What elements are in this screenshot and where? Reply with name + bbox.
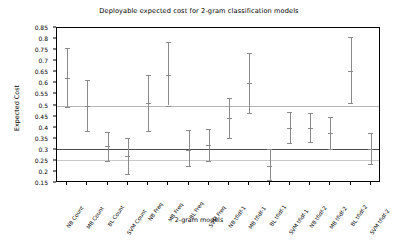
error-bar-cap-upper [227,98,232,99]
y-tick-label: 0.4 [38,123,48,130]
plot-area [56,27,380,182]
y-tick-label: 0.7 [38,57,48,64]
data-point-marker [308,128,313,129]
data-point-marker [368,149,373,150]
y-tick-label: 0.3 [38,145,48,152]
error-bar-cap-lower [247,113,252,114]
error-bar-cap-upper [85,80,90,81]
error-bar-cap-upper [146,75,151,76]
error-bar-cap-upper [287,112,292,113]
errorbar-series [57,28,379,181]
x-tick-label: MB Count [86,205,106,230]
error-bar-line [351,37,352,103]
data-point-marker [267,166,272,167]
data-point-marker [227,118,232,119]
error-bar-cap-upper [368,133,373,134]
data-point-marker [166,75,171,76]
error-bar-cap-lower [348,103,353,104]
error-bar-cap-upper [166,42,171,43]
data-point-marker [328,133,333,134]
chart-title: Deployable expected cost for 2-gram clas… [0,7,398,15]
x-tick-label: MB tfidf-2 [329,205,349,230]
y-tick-label: 0.15 [35,179,48,186]
error-bar-cap-lower [65,107,70,108]
data-point-marker [85,106,90,107]
data-point-marker [146,103,151,104]
error-bar-cap-lower [227,138,232,139]
error-bar-cap-upper [65,48,70,49]
y-tick-label: 0.75 [35,46,48,53]
error-bar-cap-upper [247,53,252,54]
error-bar-cap-upper [105,132,110,133]
error-bar-cap-upper [328,117,333,118]
error-bar-cap-lower [206,161,211,162]
error-bar-cap-lower [287,143,292,144]
error-bar-cap-lower [105,161,110,162]
error-bar-cap-lower [267,180,272,181]
data-point-marker [65,78,70,79]
error-bar-cap-lower [186,166,191,167]
data-point-marker [186,150,191,151]
error-bar-cap-lower [368,164,373,165]
data-point-marker [125,156,130,157]
data-point-marker [247,83,252,84]
error-bar-cap-lower [308,142,313,143]
x-tick-label: SVM Freq [207,205,226,229]
x-tick-label: NB tfidf-1 [227,205,246,229]
y-tick-label: 0.45 [35,112,48,119]
error-bar-cap-upper [308,113,313,114]
y-tick-label: 0.35 [35,134,48,141]
data-point-marker [105,146,110,147]
y-tick-label: 0.6 [38,79,48,86]
error-bar-cap-lower [125,174,130,175]
y-tick-label: 0.55 [35,90,48,97]
error-bar-line [189,130,190,167]
error-bar-line [270,149,271,180]
error-bar-cap-upper [206,129,211,130]
data-point-marker [348,71,353,72]
error-bar-cap-upper [186,130,191,131]
x-tick-label: BL Freq [188,200,204,220]
error-bar-cap-lower [328,149,333,150]
x-axis-label-group: NB CountMB CountBL CountSVM CountNB Freq… [56,184,380,218]
data-point-marker [287,128,292,129]
error-bar-cap-lower [146,131,151,132]
error-bar-cap-upper [348,37,353,38]
y-axis-tick-group: 0.150.20.250.30.350.40.450.50.550.60.650… [0,27,56,182]
error-bar-cap-upper [125,138,130,139]
x-tick-label: NB Count [65,205,85,229]
error-bar-cap-upper [267,149,272,150]
error-bar-cap-lower [85,131,90,132]
y-tick-label: 0.25 [35,156,48,163]
y-tick-label: 0.2 [38,167,48,174]
x-tick-label: NB tfidf-2 [308,205,327,229]
y-tick-label: 0.8 [38,35,48,42]
chart-figure: Deployable expected cost for 2-gram clas… [0,0,398,240]
y-tick-label: 0.65 [35,68,48,75]
y-tick-label: 0.5 [38,101,48,108]
data-point-marker [206,145,211,146]
x-tick-label: MB tfidf-1 [248,205,268,230]
error-bar-cap-lower [166,106,171,107]
y-tick-label: 0.85 [35,24,48,31]
